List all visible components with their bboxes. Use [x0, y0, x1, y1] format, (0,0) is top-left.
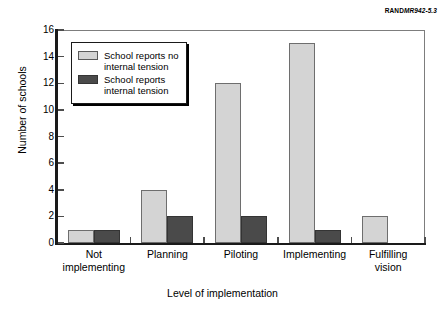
x-axis-title: Level of implementation: [0, 287, 445, 299]
bar: [315, 230, 341, 243]
y-tick-label: 8: [32, 132, 54, 142]
x-tick-label: Fulfilling vision: [343, 248, 433, 273]
y-tick-label: 10: [32, 105, 54, 115]
y-tick-label: 6: [32, 158, 54, 168]
legend-swatch-light: [78, 51, 98, 60]
y-tick-label: 2: [32, 211, 54, 221]
bar: [241, 216, 267, 243]
bar: [68, 230, 94, 243]
bar: [167, 216, 193, 243]
bar: [215, 83, 241, 243]
legend-item-no-tension: School reports no internal tension: [78, 50, 178, 72]
y-tick-label: 14: [32, 52, 54, 62]
credit-brand: RAND: [385, 7, 404, 14]
bar: [141, 190, 167, 243]
credit-code: MR942-5.3: [404, 7, 437, 14]
bar: [94, 230, 120, 243]
legend-item-tension: School reports internal tension: [78, 74, 178, 96]
figure-bar-chart: RANDMR942-5.3 Number of schools 02468101…: [0, 0, 445, 311]
y-axis-title: Number of schools: [16, 50, 28, 170]
bar: [289, 43, 315, 243]
bar: [362, 216, 388, 243]
y-tick-label: 12: [32, 78, 54, 88]
y-tick-label: 16: [32, 25, 54, 35]
y-tick-label: 0: [32, 238, 54, 248]
legend-label-tension: School reports internal tension: [104, 74, 168, 96]
figure-credit: RANDMR942-5.3: [385, 7, 437, 14]
legend-label-no-tension: School reports no internal tension: [104, 50, 178, 72]
y-tick-label: 4: [32, 185, 54, 195]
chart-legend: School reports no internal tension Schoo…: [71, 42, 187, 104]
legend-swatch-dark: [78, 75, 98, 84]
